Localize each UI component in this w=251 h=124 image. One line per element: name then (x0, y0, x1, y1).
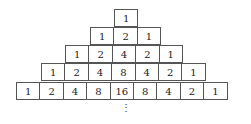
pyramid-cell: 8 (133, 82, 157, 100)
pyramid-cell: 1 (90, 27, 114, 45)
number-pyramid: 1 1 2 1 1 2 4 2 1 1 2 4 8 4 2 1 1 2 4 8 … (0, 0, 251, 124)
pyramid-row-2: 1 2 1 (90, 27, 160, 45)
pyramid-cell: 2 (39, 82, 63, 100)
pyramid-cell: 4 (63, 82, 87, 100)
pyramid-cell: 2 (113, 27, 137, 45)
pyramid-cell: 2 (64, 63, 88, 81)
pyramid-cell: 16 (110, 82, 134, 100)
pyramid-cell: 1 (181, 63, 205, 81)
pyramid-cell: 8 (111, 63, 135, 81)
pyramid-cell: 1 (41, 63, 65, 81)
pyramid-row-5: 1 2 4 8 16 8 4 2 1 (16, 82, 227, 100)
pyramid-row-1: 1 (114, 9, 137, 27)
pyramid-cell: 1 (114, 9, 138, 27)
pyramid-cell: 2 (180, 82, 204, 100)
pyramid-cell: 1 (203, 82, 227, 100)
pyramid-cell: 8 (86, 82, 110, 100)
pyramid-cell: 1 (65, 45, 89, 63)
pyramid-cell: 2 (88, 45, 112, 63)
pyramid-cell: 2 (158, 63, 182, 81)
pyramid-cell: 1 (16, 82, 40, 100)
pyramid-row-4: 1 2 4 8 4 2 1 (41, 63, 205, 81)
pyramid-row-3: 1 2 4 2 1 (65, 45, 182, 63)
pyramid-cell: 4 (156, 82, 180, 100)
pyramid-cell: 2 (135, 45, 159, 63)
pyramid-cell: 4 (88, 63, 112, 81)
pyramid-cell: 1 (137, 27, 161, 45)
pyramid-cell: 1 (159, 45, 183, 63)
pyramid-cell: 4 (135, 63, 159, 81)
pyramid-cell: 4 (112, 45, 136, 63)
continuation-ellipsis: ⋮ (121, 106, 129, 110)
